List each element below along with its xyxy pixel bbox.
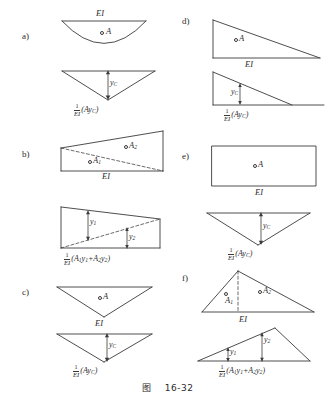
panel-e-lower-shape — [207, 213, 310, 245]
panel-letter-b: b) — [22, 150, 30, 159]
panel-letter-d: d) — [182, 17, 190, 26]
panel-f-ordinate-label-2: y2 — [264, 336, 270, 345]
panel-b-upper-diagonal — [61, 148, 163, 171]
panel-e-area-label: A — [258, 160, 263, 169]
panel-b-formula: 1EI(A1y1+A2y2) — [64, 252, 110, 267]
panel-b-lower-diagonal — [61, 219, 160, 248]
figure-16-32: a) EI A yC 1EI(AyC) b) A1 A2 EI y1 y2 1E… — [0, 0, 335, 404]
figure-caption-prefix: 图 — [142, 383, 152, 393]
panel-c-ordinate-label: yC — [109, 341, 116, 350]
panel-f-area-label-1: A1 — [225, 296, 233, 306]
panel-letter-f: f) — [182, 274, 188, 283]
panel-b-upper-ei-label: EI — [102, 172, 110, 181]
panel-e-formula: 1EI(AyC) — [228, 247, 252, 262]
panel-c-upper-ei-label: EI — [95, 319, 103, 328]
panel-a-ordinate-label: yC — [110, 79, 117, 88]
panel-d-ordinate-label: yC — [231, 88, 238, 97]
panel-f-formula: 1EI(A1y1+A2y2) — [219, 364, 265, 379]
panel-e-upper-shape — [212, 146, 316, 186]
panel-a-area-label: A — [106, 27, 111, 36]
panel-e-ordinate-label: yC — [263, 222, 270, 231]
panel-f-area-label-2: A2 — [263, 286, 271, 296]
figure-caption: 图 16-32 — [0, 381, 335, 394]
panel-b-ordinate-label-1: y1 — [90, 218, 96, 227]
panel-c-formula: 1EI(AyC) — [73, 364, 97, 379]
panel-b-area-label-2: A2 — [129, 141, 137, 151]
panel-d-upper-shape — [213, 20, 320, 58]
panel-f-ordinate-label-1: y1 — [230, 348, 236, 357]
panel-a-formula: 1EI(AyC) — [74, 103, 98, 118]
panel-c-lower-shape — [57, 334, 152, 362]
panel-d-ordinate-arrow — [238, 84, 242, 105]
panel-letter-a: a) — [22, 32, 29, 41]
panel-d-area-label: A — [239, 34, 244, 43]
panel-f-upper-ei-label: EI — [239, 315, 247, 324]
panel-f-lower-shape — [198, 328, 310, 361]
panel-b-upper-shape — [61, 131, 163, 171]
panel-b-area-label-1: A1 — [93, 156, 101, 166]
panel-letter-e: e) — [182, 152, 189, 161]
panel-b-lower-shape — [61, 207, 160, 248]
panel-d-lower-shape — [213, 72, 324, 105]
panel-a-upper-ei-label: EI — [96, 9, 104, 18]
panel-letter-c: c) — [22, 288, 29, 297]
figure-vector-canvas — [0, 0, 335, 404]
panel-c-area-label: A — [103, 292, 108, 301]
panel-b-ordinate-label-2: y2 — [129, 233, 135, 242]
figure-caption-number: 16-32 — [165, 383, 194, 393]
panel-d-upper-ei-label: EI — [245, 60, 253, 69]
panel-e-upper-ei-label: EI — [255, 188, 263, 197]
panel-d-formula: 1EI(AyC) — [224, 108, 248, 123]
